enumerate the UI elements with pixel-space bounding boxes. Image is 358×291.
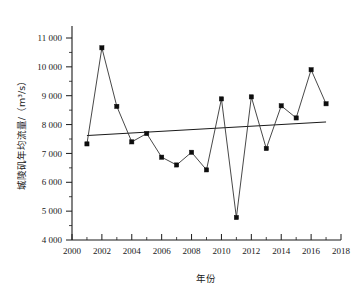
data-point-marker (130, 140, 134, 144)
y-tick-label: 9 000 (42, 91, 63, 101)
data-point-marker (264, 146, 268, 150)
data-point-marker (279, 104, 283, 108)
data-point-marker (189, 150, 193, 154)
x-tick-label: 2012 (242, 246, 260, 256)
data-point-marker (100, 46, 104, 50)
data-point-marker (160, 155, 164, 159)
x-tick-label: 2018 (332, 246, 351, 256)
data-point-marker (324, 102, 328, 106)
x-tick-label: 2008 (183, 246, 202, 256)
chart-figure: 4 0005 0006 0007 0008 0009 00010 00011 0… (0, 0, 358, 291)
x-axis-title: 年份 (196, 273, 216, 284)
y-tick-label: 5 000 (42, 206, 63, 216)
data-markers-group (85, 46, 328, 220)
y-tick-label: 8 000 (42, 120, 63, 130)
axis-lines (72, 26, 341, 240)
series-polyline (87, 48, 326, 218)
x-tick-label: 2006 (153, 246, 172, 256)
x-tick-label: 2014 (272, 246, 291, 256)
y-tick-label: 6 000 (42, 177, 63, 187)
data-point-marker (175, 163, 179, 167)
chart-canvas: 4 0005 0006 0007 0008 0009 00010 00011 0… (0, 0, 358, 291)
y-tick-label: 11 000 (38, 33, 63, 43)
x-tick-label: 2010 (212, 246, 231, 256)
x-axis-tick-labels: 2000200220042006200820102012201420162018 (63, 246, 351, 256)
data-point-marker (234, 215, 238, 219)
y-tick-label: 10 000 (37, 62, 62, 72)
y-tick-label: 4 000 (42, 235, 63, 245)
x-axis-ticks (72, 234, 341, 240)
y-tick-label: 7 000 (42, 149, 63, 159)
data-point-marker (294, 116, 298, 120)
data-series-group (87, 48, 326, 218)
y-axis-title: 城陵矶年均流量/（m³/s） (16, 76, 27, 190)
x-tick-label: 2004 (123, 246, 142, 256)
y-axis-tick-labels: 4 0005 0006 0007 0008 0009 00010 00011 0… (37, 33, 62, 245)
data-point-marker (115, 104, 119, 108)
y-axis-ticks (66, 38, 72, 240)
x-tick-label: 2000 (63, 246, 82, 256)
trend-line-group (87, 122, 326, 136)
trend-line (87, 122, 326, 136)
data-point-marker (309, 68, 313, 72)
x-tick-label: 2002 (93, 246, 111, 256)
data-point-marker (85, 142, 89, 146)
data-point-marker (249, 95, 253, 99)
data-point-marker (145, 131, 149, 135)
data-point-marker (219, 97, 223, 101)
data-point-marker (204, 168, 208, 172)
x-tick-label: 2016 (302, 246, 321, 256)
